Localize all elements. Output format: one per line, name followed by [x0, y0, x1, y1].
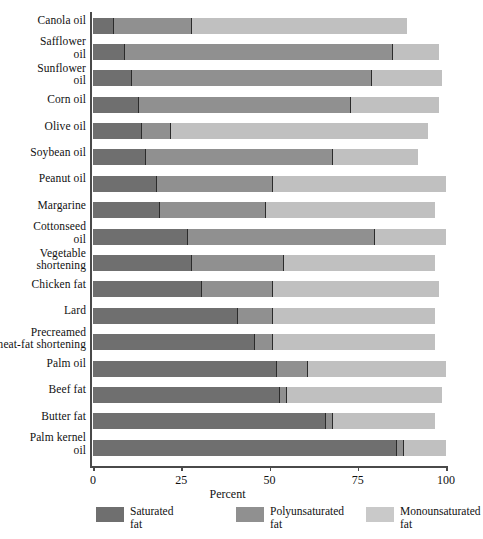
bar-segment-poly [277, 361, 309, 377]
bar-segment-poly [139, 97, 351, 113]
stacked-bar-chart: Canola oilSaffloweroilSunfloweroilCorn o… [0, 0, 483, 539]
legend-label-line: fat [270, 518, 344, 531]
legend-item: Monounsaturatedfat [366, 505, 480, 530]
bar-segment-sat [93, 361, 277, 377]
bar-segment-poly [202, 281, 273, 297]
bar-segment-poly [157, 176, 273, 192]
category-label: Sunfloweroil [0, 62, 86, 87]
chart-legend: SaturatedfatPolyunsaturatedfatMonounsatu… [0, 505, 483, 539]
legend-item: Polyunsaturatedfat [236, 505, 344, 530]
stacked-bar [93, 413, 446, 429]
category-label: Soybean oil [0, 146, 86, 158]
legend-label-line: Saturated [130, 505, 173, 518]
bar-segment-sat [93, 413, 326, 429]
stacked-bar [93, 176, 446, 192]
category-label-line: Canola oil [0, 14, 86, 26]
legend-label: Polyunsaturatedfat [270, 505, 344, 530]
bar-segment-mono [351, 97, 439, 113]
stacked-bar [93, 202, 446, 218]
x-axis-title: Percent [0, 487, 483, 502]
bar-row: Beef fat [0, 383, 483, 409]
bar-row: Palm oil [0, 357, 483, 383]
x-tick [181, 466, 183, 471]
legend-swatch [366, 507, 394, 522]
bar-row: Corn oil [0, 93, 483, 119]
legend-label-line: Monounsaturated [400, 505, 480, 518]
bar-segment-poly [146, 149, 333, 165]
category-label-line: oil [0, 444, 86, 456]
x-tick-label: 100 [437, 473, 455, 488]
category-label-line: shortening [0, 259, 86, 271]
plot-area: Canola oilSaffloweroilSunfloweroilCorn o… [0, 0, 483, 470]
legend-item: Saturatedfat [96, 505, 173, 530]
category-label-line: Corn oil [0, 93, 86, 105]
bar-segment-poly [238, 308, 273, 324]
bar-segment-poly [160, 202, 266, 218]
category-label-line: Cottonseed [0, 220, 86, 232]
stacked-bar [93, 229, 446, 245]
stacked-bar [93, 334, 446, 350]
stacked-bar [93, 361, 446, 377]
category-label: Beef fat [0, 383, 86, 395]
bar-segment-sat [93, 97, 139, 113]
bar-segment-poly [188, 229, 375, 245]
bar-segment-mono [284, 255, 436, 271]
category-label-line: Olive oil [0, 120, 86, 132]
category-label-line: Palm oil [0, 357, 86, 369]
bar-row: Soybean oil [0, 146, 483, 172]
x-tick [446, 466, 448, 471]
category-label-line: Peanut oil [0, 172, 86, 184]
bar-segment-sat [93, 281, 202, 297]
bar-segment-mono [372, 70, 443, 86]
category-label: Cottonseedoil [0, 220, 86, 245]
bar-segment-sat [93, 44, 125, 60]
bar-segment-mono [287, 387, 442, 403]
bar-row: Olive oil [0, 120, 483, 146]
bar-segment-sat [93, 149, 146, 165]
stacked-bar [93, 149, 446, 165]
x-tick [93, 466, 95, 471]
bar-segment-poly [125, 44, 393, 60]
stacked-bar [93, 97, 446, 113]
bar-segment-poly [255, 334, 273, 350]
category-label: Canola oil [0, 14, 86, 26]
stacked-bar [93, 70, 446, 86]
bar-segment-poly [326, 413, 333, 429]
category-label-line: meat-fat shortening [0, 338, 86, 350]
bar-segment-sat [93, 123, 142, 139]
legend-label-line: Polyunsaturated [270, 505, 344, 518]
bar-segment-mono [333, 413, 435, 429]
stacked-bar [93, 440, 446, 456]
category-label-line: oil [0, 74, 86, 86]
bar-segment-mono [273, 308, 435, 324]
stacked-bar [93, 281, 446, 297]
bar-segment-mono [192, 18, 407, 34]
legend-label-line: fat [400, 518, 480, 531]
category-label: Saffloweroil [0, 35, 86, 60]
x-tick-label: 0 [90, 473, 96, 488]
category-label: Chicken fat [0, 278, 86, 290]
bar-segment-poly [280, 387, 287, 403]
bar-segment-sat [93, 255, 192, 271]
bar-segment-mono [273, 176, 446, 192]
bar-row: Vegetableshortening [0, 252, 483, 278]
category-label: Precreamedmeat-fat shortening [0, 326, 86, 351]
bar-segment-sat [93, 387, 280, 403]
bar-segment-poly [114, 18, 192, 34]
bar-segment-sat [93, 18, 114, 34]
x-tick [270, 466, 272, 471]
bar-row: Chicken fat [0, 278, 483, 304]
x-tick-label: 25 [175, 473, 187, 488]
category-label: Lard [0, 304, 86, 316]
category-label-line: Sunflower [0, 62, 86, 74]
category-label-line: Vegetable [0, 247, 86, 259]
category-label-line: Butter fat [0, 410, 86, 422]
bar-segment-poly [132, 70, 372, 86]
category-label-line: Soybean oil [0, 146, 86, 158]
category-label: Corn oil [0, 93, 86, 105]
bar-row: Sunfloweroil [0, 67, 483, 93]
bar-segment-poly [142, 123, 170, 139]
bar-row: Palm kerneloil [0, 436, 483, 462]
bar-segment-sat [93, 334, 255, 350]
category-label-line: Safflower [0, 35, 86, 47]
